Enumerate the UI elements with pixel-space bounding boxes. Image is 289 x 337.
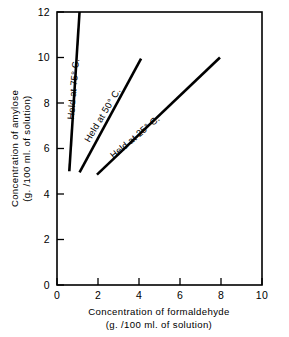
y-tick-label: 6 — [44, 142, 50, 154]
y-tick-label: 2 — [44, 233, 50, 245]
y-axis-title: Concentration of amylose (g. /100 ml. of… — [9, 90, 32, 207]
y-tick-label: 12 — [38, 6, 50, 18]
y-axis-title-line2: (g. /100 ml. of solution) — [21, 95, 32, 201]
chart-canvas: 0 2 4 6 8 10 12 0 2 4 6 8 10 Held at 75°… — [0, 0, 289, 337]
x-axis-title-line1: Concentration of formaldehyde — [88, 306, 229, 317]
y-axis-ticks — [57, 12, 64, 285]
y-tick-label: 10 — [38, 51, 50, 63]
y-tick-label: 8 — [44, 97, 50, 109]
series-label-50c: Held at 50° C. — [82, 86, 123, 144]
x-tick-label: 6 — [177, 289, 183, 301]
y-tick-labels: 0 2 4 6 8 10 12 — [38, 6, 50, 291]
x-tick-label: 4 — [136, 289, 142, 301]
x-tick-label: 10 — [256, 289, 268, 301]
series-label-25c: Held at 25° C. — [108, 113, 162, 161]
x-tick-labels: 0 2 4 6 8 10 — [54, 289, 268, 301]
x-tick-label: 2 — [95, 289, 101, 301]
x-axis-title-line2: (g. /100 ml. of solution) — [106, 319, 212, 330]
series-label-75c: Held at 75° C. — [65, 58, 81, 120]
data-series-group — [69, 12, 220, 175]
y-axis-title-line1: Concentration of amylose — [9, 90, 20, 207]
x-tick-label: 8 — [218, 289, 224, 301]
plot-frame — [57, 12, 262, 285]
x-tick-label: 0 — [54, 289, 60, 301]
chart-figure: 0 2 4 6 8 10 12 0 2 4 6 8 10 Held at 75°… — [0, 0, 289, 337]
x-axis-title: Concentration of formaldehyde (g. /100 m… — [88, 306, 229, 330]
y-tick-label: 0 — [44, 279, 50, 291]
y-tick-label: 4 — [44, 188, 50, 200]
x-axis-ticks — [57, 278, 262, 285]
